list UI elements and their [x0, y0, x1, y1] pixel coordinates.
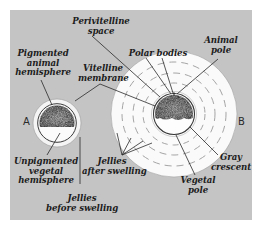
label-vitelline-membrane: Vitelline membrane — [78, 64, 128, 83]
egg-a — [33, 99, 81, 147]
label-line: pole — [178, 186, 218, 196]
label-line: Polar bodies — [128, 49, 188, 59]
label-line: membrane — [78, 74, 128, 84]
label-perivitelline-space: Perivitelline space — [68, 17, 134, 36]
label-jellies-before-swelling: Jellies before swelling — [46, 194, 118, 213]
label-line: after swelling — [82, 167, 142, 177]
label-line: before swelling — [46, 204, 118, 214]
label-line: pole — [201, 46, 241, 56]
label-polar-bodies: Polar bodies — [128, 49, 188, 59]
label-pigmented-animal-hemisphere: Pigmented animal hemisphere — [13, 49, 73, 78]
label-gray-crescent: Gray crescent — [210, 153, 252, 172]
label-animal-pole: Animal pole — [201, 36, 241, 55]
label-line: hemisphere — [13, 176, 79, 186]
label-jellies-after-swelling: Jellies after swelling — [82, 157, 142, 176]
label-vegetal-pole: Vegetal pole — [178, 176, 218, 195]
frog-egg-diagram: A B Perivitelline space Polar bodies Ani… — [0, 0, 265, 227]
panel-letter-b: B — [238, 116, 245, 127]
label-line: hemisphere — [13, 68, 73, 78]
label-unpigmented-vegetal-hemisphere: Unpigmented vegetal hemisphere — [13, 157, 79, 186]
label-line: crescent — [210, 163, 252, 173]
label-line: space — [68, 27, 134, 37]
panel-letter-a: A — [23, 116, 30, 127]
